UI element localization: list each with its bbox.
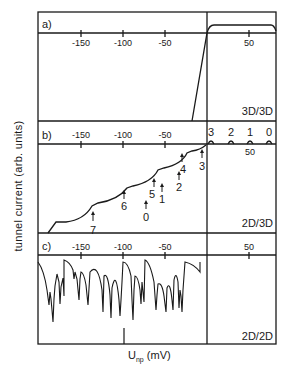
tick-label: 50: [244, 242, 254, 252]
curve-c: [38, 260, 200, 322]
step-label: 0: [143, 211, 149, 223]
tick-label: -100: [114, 242, 132, 252]
tick-label: -150: [72, 38, 90, 48]
tick-label: -50: [158, 130, 171, 140]
regime-a: 3D/3D: [242, 105, 273, 117]
step-label: 4: [180, 163, 186, 175]
regime-b: 2D/3D: [242, 217, 273, 229]
tick-label: -150: [72, 242, 90, 252]
step-label: 5: [149, 188, 155, 200]
chart-figure: a) b) c) 3D/3D 2D/3D 2D/2D -150 -100 -50…: [0, 0, 289, 375]
tick-label: 50: [245, 147, 255, 157]
tick-label: -50: [158, 242, 171, 252]
panel-label-a: a): [42, 18, 52, 30]
tick-label: -100: [114, 130, 132, 140]
bump-label: 1: [247, 126, 253, 138]
step-label: 6: [121, 200, 127, 212]
tick-label: -150: [72, 130, 90, 140]
tick-label: -50: [158, 38, 171, 48]
step-label: 1: [159, 193, 165, 205]
regime-c: 2D/2D: [242, 330, 273, 342]
bump-label: 3: [208, 126, 214, 138]
bump-label: 0: [266, 126, 272, 138]
panel-label-b: b): [42, 129, 52, 141]
step-label: 3: [199, 160, 205, 172]
tick-label: 50: [244, 38, 254, 48]
bump-label: 2: [228, 126, 234, 138]
step-label: 7: [90, 224, 96, 236]
panel-label-c: c): [42, 240, 51, 252]
tick-label: -100: [114, 38, 132, 48]
step-label: 2: [176, 181, 182, 193]
